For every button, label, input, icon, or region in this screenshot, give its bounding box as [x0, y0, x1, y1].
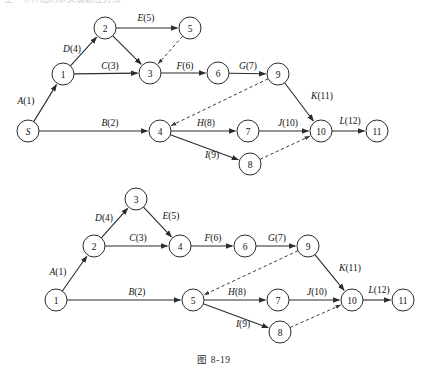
node-bottom-9[interactable]: 9: [297, 235, 319, 257]
node-bottom-2[interactable]: 2: [83, 235, 105, 257]
edge-label-bottom-2-4: C(3): [129, 233, 146, 244]
node-bottom-10[interactable]: 10: [341, 289, 363, 311]
edge-top-2-to-3: [113, 36, 141, 64]
node-label: 3: [148, 69, 153, 79]
node-top-7[interactable]: 7: [237, 120, 259, 142]
edge-label-bottom-5-8: I(9): [235, 319, 250, 330]
node-top-3[interactable]: 3: [139, 62, 161, 84]
edge-label-bottom-5-7: H(8): [227, 287, 246, 298]
node-top-9[interactable]: 9: [267, 63, 289, 85]
node-label: 5: [188, 24, 193, 34]
node-top-4[interactable]: 4: [149, 120, 171, 142]
node-label: 8: [278, 328, 283, 338]
node-label: 4: [158, 127, 163, 137]
edge-label-bottom-10-11: L(12): [367, 285, 389, 296]
edge-label-bottom-1-5: B(2): [129, 287, 146, 298]
node-label: 11: [372, 127, 381, 137]
node-bottom-5[interactable]: 5: [182, 289, 204, 311]
network-diagrams-svg: S12536947810111234695781011 A(1)D(4)E(5)…: [0, 0, 428, 374]
edge-label-top-2-5: E(5): [137, 13, 155, 24]
node-label: 4: [178, 242, 183, 252]
edge-top-6-to-9: [229, 73, 266, 74]
node-label: 10: [316, 127, 326, 137]
edge-top-9-to-4: [171, 79, 268, 126]
edge-top-5-to-3: [158, 36, 182, 63]
edge-label-bottom-2-3: D(4): [94, 213, 113, 224]
edge-bottom-9-to-5: [204, 251, 298, 295]
node-bottom-7[interactable]: 7: [267, 289, 289, 311]
node-label: 10: [347, 296, 357, 306]
edge-label-bottom-1-2: A(1): [49, 267, 67, 278]
node-top-6[interactable]: 6: [207, 62, 229, 84]
node-label: 8: [248, 160, 253, 170]
node-bottom-3[interactable]: 3: [125, 188, 147, 210]
node-label: 9: [306, 242, 311, 252]
edge-label-top-1-2: D(4): [62, 44, 81, 55]
node-label: 7: [246, 127, 251, 137]
node-top-10[interactable]: 10: [310, 120, 332, 142]
node-top-8[interactable]: 8: [239, 153, 261, 175]
node-top-1[interactable]: 1: [52, 63, 74, 85]
node-label: 3: [134, 195, 139, 205]
edge-label-top-6-9: G(7): [239, 61, 257, 72]
edge-label-top-S-4: B(2): [102, 118, 119, 129]
edge-label-top-7-10: J(10): [278, 118, 298, 129]
node-top-2[interactable]: 2: [94, 17, 116, 39]
edge-label-top-3-6: F(6): [176, 61, 194, 72]
node-top-11[interactable]: 11: [366, 120, 388, 142]
node-bottom-11[interactable]: 11: [392, 289, 414, 311]
node-label: S: [26, 127, 31, 137]
node-label: 11: [398, 296, 407, 306]
edge-top-S-to-1: [34, 85, 57, 122]
node-label: 1: [61, 70, 66, 80]
edge-label-bottom-3-4: E(5): [162, 211, 180, 222]
node-label: 2: [103, 24, 108, 34]
node-label: 2: [92, 242, 97, 252]
node-bottom-1[interactable]: 1: [45, 289, 67, 311]
node-bottom-4[interactable]: 4: [169, 235, 191, 257]
edge-label-bottom-9-10: K(11): [338, 263, 361, 274]
edge-label-bottom-4-6: F(6): [204, 233, 222, 244]
node-top-5[interactable]: 5: [179, 17, 201, 39]
node-label: 9: [276, 70, 281, 80]
edge-label-top-1-3: C(3): [101, 61, 118, 72]
node-top-S[interactable]: S: [17, 120, 39, 142]
node-label: 1: [54, 296, 59, 306]
edge-label-top-10-11: L(12): [338, 116, 360, 127]
edge-label-bottom-7-10: J(10): [307, 287, 327, 298]
node-bottom-6[interactable]: 6: [234, 235, 256, 257]
node-label: 6: [243, 242, 248, 252]
figure-canvas: S12536947810111234695781011 A(1)D(4)E(5)…: [0, 0, 428, 374]
edge-top-8-to-10: [260, 136, 310, 159]
node-label: 6: [216, 69, 221, 79]
node-label: 7: [276, 296, 281, 306]
figure-caption: 图 8-19: [0, 352, 428, 366]
edge-label-top-9-10: K(11): [310, 91, 333, 102]
edge-bottom-8-to-10: [290, 305, 341, 327]
edge-labels-layer: A(1)D(4)E(5)C(3)F(6)G(7)B(2)H(8)J(10)I(9…: [17, 13, 390, 330]
node-bottom-8[interactable]: 8: [269, 321, 291, 343]
edge-top-9-to-10: [285, 83, 314, 121]
edge-label-top-S-1: A(1): [17, 96, 35, 107]
edge-label-bottom-6-9: G(7): [268, 233, 286, 244]
edge-top-1-to-3: [74, 73, 138, 74]
edge-label-top-4-8: I(9): [204, 150, 219, 161]
nodes-layer: S12536947810111234695781011: [17, 17, 414, 343]
node-label: 5: [191, 296, 196, 306]
edge-label-top-4-7: H(8): [196, 118, 215, 129]
